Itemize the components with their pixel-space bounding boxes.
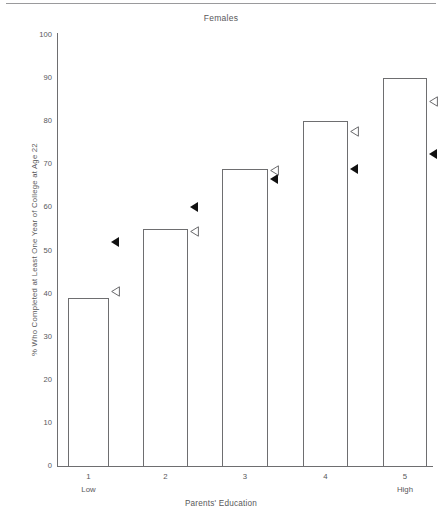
y-tick-label: 40 (18, 289, 52, 298)
x-tick-label: 3 (225, 472, 265, 481)
y-tick-label: 20 (18, 375, 52, 384)
x-tick-sublabel: Low (69, 485, 109, 494)
y-tick-label: 0 (18, 461, 52, 470)
bar (68, 298, 109, 466)
y-axis-line (57, 33, 58, 467)
y-tick-label: 100 (18, 30, 52, 39)
chart-title: Females (0, 13, 442, 23)
x-tick-label: 1 (69, 472, 109, 481)
filled-triangle-marker (190, 202, 198, 212)
x-tick-label: 4 (306, 472, 346, 481)
open-triangle-marker (429, 96, 438, 107)
open-triangle-marker (270, 165, 279, 176)
x-axis-line (57, 466, 433, 467)
x-tick-sublabel: High (385, 485, 425, 494)
filled-triangle-marker (350, 164, 358, 174)
x-tick-label: 5 (385, 472, 425, 481)
bar (383, 78, 427, 466)
filled-triangle-marker (429, 149, 437, 159)
y-tick-label: 30 (18, 332, 52, 341)
y-tick-label: 50 (18, 246, 52, 255)
bar (303, 121, 348, 466)
bar (143, 229, 188, 466)
filled-triangle-marker (111, 237, 119, 247)
y-tick-label: 60 (18, 202, 52, 211)
top-rule (6, 3, 436, 4)
bar (222, 169, 268, 466)
chart-figure: Females % Who Completed at Least One Yea… (0, 0, 442, 529)
open-triangle-marker (350, 126, 359, 137)
open-triangle-marker (111, 286, 120, 297)
x-tick-label: 2 (146, 472, 186, 481)
y-tick-label: 70 (18, 159, 52, 168)
y-tick-label: 90 (18, 73, 52, 82)
x-axis-label: Parents' Education (0, 499, 442, 508)
y-tick-label: 10 (18, 418, 52, 427)
y-tick-label: 80 (18, 116, 52, 125)
open-triangle-marker (190, 226, 199, 237)
